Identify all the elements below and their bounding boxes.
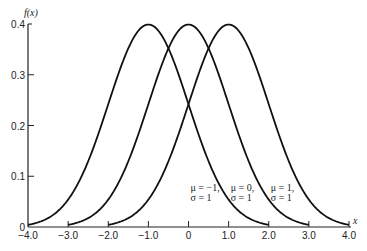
curves [28, 25, 349, 225]
x-tick-label: −1.0 [139, 230, 159, 241]
x-tick-label: −2.0 [98, 230, 118, 241]
normal-distribution-chart: −4.0−3.0−2.0−1.001.02.03.04.000.10.20.30… [0, 0, 367, 251]
y-tick-label: 0.1 [11, 171, 25, 182]
series-label: μ = −1,σ = 1 [191, 182, 220, 203]
series-label: μ = 0,σ = 1 [231, 182, 255, 203]
x-tick-label: 3.0 [302, 230, 316, 241]
y-tick-label: 0.4 [11, 19, 25, 30]
y-tick-label: 0.2 [11, 121, 25, 132]
x-axis-title: x [352, 215, 358, 226]
x-tick-label: 2.0 [262, 230, 276, 241]
x-tick-label: 0 [186, 230, 192, 241]
x-tick-label: 4.0 [342, 230, 356, 241]
annotations: μ = −1,σ = 1μ = 0,σ = 1μ = 1,σ = 1 [191, 182, 295, 203]
series-label-sigma: σ = 1 [231, 192, 252, 203]
curve-mu-1-sigma-1 [108, 25, 349, 225]
series-label: μ = 1,σ = 1 [271, 182, 295, 203]
y-tick-label: 0 [19, 222, 25, 233]
series-label-sigma: σ = 1 [271, 192, 292, 203]
series-label-sigma: σ = 1 [191, 192, 212, 203]
y-tick-label: 0.3 [11, 70, 25, 81]
x-tick-label: −3.0 [58, 230, 78, 241]
y-axis-title: f(x) [24, 7, 39, 19]
x-tick-label: 1.0 [222, 230, 236, 241]
